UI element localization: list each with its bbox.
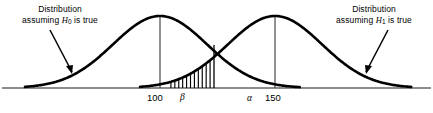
annotation-null-hypothesis: Distribution assuming H0 is true: [8, 4, 112, 27]
statistics-figure: Distribution assuming H0 is true Distrib…: [0, 0, 433, 113]
left-pointer-arrow: [50, 30, 73, 74]
axis-label-alpha: α: [247, 93, 252, 103]
axis-label-mean-null: 100: [147, 92, 163, 103]
annotation-null-line2-prefix: assuming: [22, 15, 62, 25]
annotation-null-line2-suffix: is true: [72, 15, 98, 25]
right-pointer-arrow: [365, 30, 388, 74]
annotation-alt-line1: Distribution: [352, 4, 396, 14]
annotation-alt-hypothesis: Distribution assuming H1 is true: [322, 4, 426, 27]
annotation-null-line1: Distribution: [38, 4, 82, 14]
annotation-alt-line2-suffix: is true: [386, 15, 412, 25]
annotation-alt-line2-prefix: assuming: [336, 15, 376, 25]
axis-label-beta: β: [180, 92, 185, 102]
axis-label-mean-alt: 150: [265, 92, 281, 103]
